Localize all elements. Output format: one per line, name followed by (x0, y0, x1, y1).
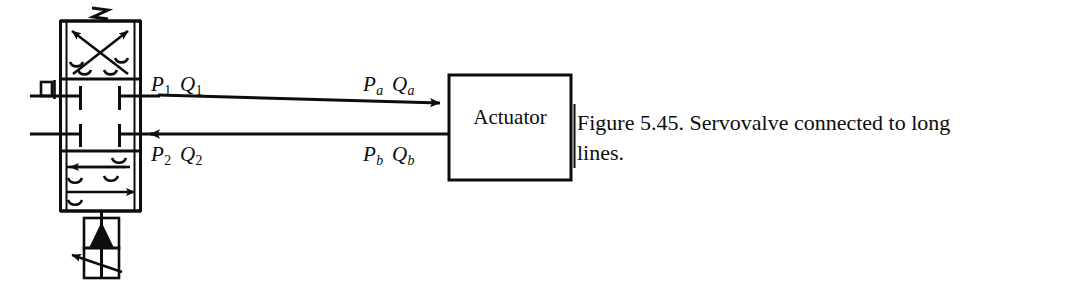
valve-body (30, 8, 160, 278)
valve-left-port-tab (41, 80, 55, 99)
figure-caption-line-1: Figure 5.45. Servovalve connected to lon… (577, 108, 1072, 138)
port-label-valve-upper: P1Q1 (151, 72, 202, 99)
figure-caption-line-2: lines. (577, 138, 1072, 168)
valve-bottom-envelope-parallel-paths (66, 158, 135, 205)
port-label-actuator-lower: PbQb (363, 142, 414, 169)
figure-container: P1Q1 P2Q2 PaQa PbQb Actuator Figure 5.45… (0, 0, 1086, 290)
valve-spring-symbol (92, 8, 108, 19)
port-label-actuator-upper: PaQa (363, 72, 414, 99)
port-label-valve-lower: P2Q2 (151, 142, 202, 169)
figure-caption: Figure 5.45. Servovalve connected to lon… (577, 108, 1072, 168)
valve-top-envelope-crossed-paths (70, 31, 128, 74)
valve-solenoid-actuator (72, 211, 122, 278)
actuator-label: Actuator (452, 105, 568, 130)
